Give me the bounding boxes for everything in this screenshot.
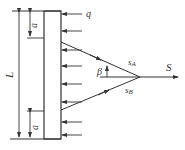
top-offset-label: a	[28, 23, 39, 28]
load-label: q	[86, 8, 91, 19]
force-sb-arrow	[98, 90, 109, 95]
beam	[44, 11, 61, 139]
bottom-offset-label: a	[29, 125, 40, 130]
force-sa-arrow	[90, 55, 101, 60]
angle-beta-label: β	[96, 66, 102, 77]
force-sa-label: sA	[128, 57, 137, 68]
resultant-s-label: S	[166, 61, 172, 73]
beam-force-diagram: L a a q β sA sB S	[0, 0, 185, 150]
length-label: L	[3, 72, 15, 79]
distributed-load-arrows	[62, 14, 82, 135]
force-sb-label: sB	[125, 85, 134, 96]
